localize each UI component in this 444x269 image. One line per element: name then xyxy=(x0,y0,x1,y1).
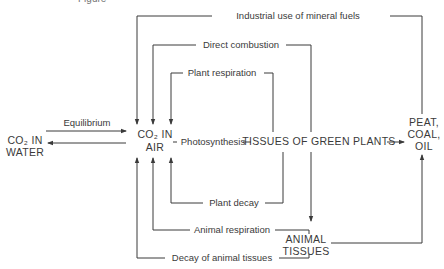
equilibrium-label: Equilibrium xyxy=(64,117,111,128)
fossil-line2: COAL, xyxy=(407,128,440,140)
node-co2-air: CO₂ IN AIR xyxy=(137,128,172,153)
combustion-arrow xyxy=(153,45,196,124)
plant-decay-line-right xyxy=(265,152,283,203)
node-animal-tissues: ANIMAL TISSUES xyxy=(282,233,329,257)
fossil-line3: OIL xyxy=(415,140,433,152)
plant-respiration-arrow xyxy=(171,73,183,124)
animal-decay-arrow xyxy=(137,158,165,258)
fossil-line1: PEAT, xyxy=(409,116,439,128)
animal-tissues-line2: TISSUES xyxy=(282,245,329,257)
combustion-flow: Direct combustion xyxy=(153,39,311,132)
combustion-line-right xyxy=(286,45,311,132)
plant-decay-label: Plant decay xyxy=(209,197,259,208)
node-fossil-fuels: PEAT, COAL, OIL xyxy=(407,116,440,152)
node-green-plants: TISSUES OF GREEN PLANTS xyxy=(242,135,395,147)
plant-respiration-flow: Plant respiration xyxy=(171,67,273,132)
carbon-cycle-diagram: Figure Industrial use of mineral fuels D… xyxy=(0,0,444,269)
industrial-line-right xyxy=(390,16,422,114)
combustion-label: Direct combustion xyxy=(203,39,279,50)
industrial-label: Industrial use of mineral fuels xyxy=(236,10,360,21)
industrial-flow: Industrial use of mineral fuels xyxy=(137,10,422,124)
co2-air-line1: CO₂ IN xyxy=(137,128,172,140)
plant-respiration-label: Plant respiration xyxy=(188,67,257,78)
figure-caption-partial: Figure xyxy=(78,0,107,4)
node-co2-water: CO₂ IN WATER xyxy=(6,134,44,158)
animal-respiration-label: Animal respiration xyxy=(194,224,270,235)
co2-water-line1: CO₂ IN xyxy=(7,134,42,146)
equilibrium-flow: Equilibrium xyxy=(46,117,126,143)
animal-tissues-line1: ANIMAL xyxy=(286,233,327,245)
plant-respiration-line-right xyxy=(264,73,273,132)
co2-water-line2: WATER xyxy=(6,146,44,158)
animals-to-fossil-arrow xyxy=(331,155,422,243)
plant-decay-arrow xyxy=(171,158,203,203)
co2-air-line2: AIR xyxy=(146,141,165,153)
plant-decay-flow: Plant decay xyxy=(171,152,283,208)
animal-decay-label: Decay of animal tissues xyxy=(172,252,273,263)
photosynthesis-flow: Photosynthesis xyxy=(173,136,251,147)
photosynthesis-label: Photosynthesis xyxy=(181,136,246,147)
